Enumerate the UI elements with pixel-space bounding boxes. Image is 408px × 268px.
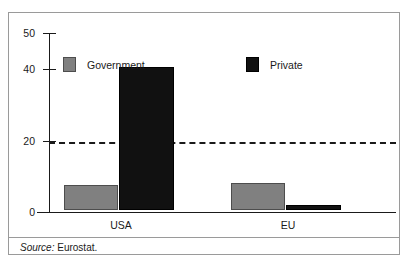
y-tick-label-20: 20 xyxy=(9,136,35,146)
bar-usa-government xyxy=(64,185,118,210)
legend-label-government: Government xyxy=(87,59,145,71)
x-category-label-usa: USA xyxy=(91,219,151,231)
legend-item-government: Government xyxy=(63,57,145,72)
legend-item-private: Private xyxy=(246,57,303,72)
x-category-label-eu: EU xyxy=(258,219,318,231)
footer-divider xyxy=(9,237,399,238)
y-axis-line xyxy=(49,33,50,213)
y-tick-label-50: 50 xyxy=(9,28,35,38)
x-axis-line xyxy=(37,212,396,213)
source-label: Source: xyxy=(20,242,54,253)
plot-area: 50 40 20 0 Government Private USA EU xyxy=(9,13,399,254)
y-tick-50 xyxy=(43,33,56,34)
bar-eu-private xyxy=(286,205,341,210)
y-tick-label-0: 0 xyxy=(9,207,35,217)
legend-swatch-private-icon xyxy=(246,57,259,72)
bar-eu-government xyxy=(231,183,285,210)
legend-label-private: Private xyxy=(270,59,303,71)
y-tick-label-40: 40 xyxy=(9,64,35,74)
source-note: Source: Eurostat. xyxy=(20,242,97,253)
reference-line-20 xyxy=(49,142,396,144)
source-value: Eurostat. xyxy=(54,242,97,253)
bar-usa-private xyxy=(119,67,174,210)
chart-figure: 50 40 20 0 Government Private USA EU Sou… xyxy=(8,12,400,255)
y-tick-40 xyxy=(43,69,56,70)
legend-swatch-government-icon xyxy=(63,57,76,72)
y-tick-0 xyxy=(43,212,56,213)
